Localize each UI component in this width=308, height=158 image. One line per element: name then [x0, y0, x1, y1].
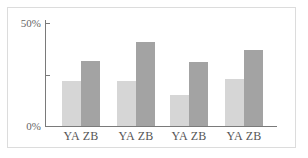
bar-ya-4 — [225, 79, 244, 126]
bar-ya-2 — [117, 81, 136, 126]
x-category-label: YA ZB — [164, 129, 214, 144]
bar-ya-1 — [62, 81, 81, 126]
bar-zb-3 — [189, 62, 208, 126]
x-category-label: YA ZB — [56, 129, 106, 144]
x-category-label: YA ZB — [219, 129, 269, 144]
y-axis — [45, 20, 46, 126]
y-tick-label: 50% — [3, 17, 41, 29]
bar-zb-4 — [244, 50, 263, 126]
bar-zb-1 — [81, 61, 100, 126]
bar-ya-3 — [170, 95, 189, 126]
x-axis — [45, 126, 277, 127]
y-tick — [45, 75, 50, 76]
bar-zb-2 — [136, 42, 155, 126]
x-category-label: YA ZB — [111, 129, 161, 144]
y-tick — [45, 126, 50, 127]
y-tick — [45, 23, 50, 24]
y-tick-label: 0% — [3, 120, 41, 132]
